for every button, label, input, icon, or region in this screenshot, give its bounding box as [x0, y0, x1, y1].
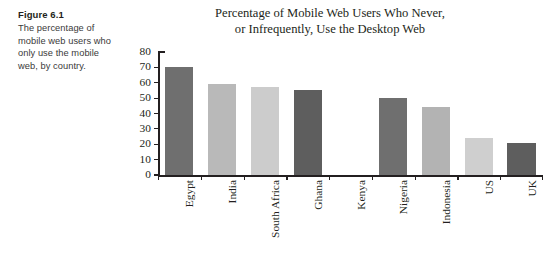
x-axis-category-label: US [484, 180, 495, 195]
chart-title: Percentage of Mobile Web Users Who Never… [120, 6, 540, 37]
y-axis-tick [154, 159, 159, 160]
x-axis-category-label: Nigeria [398, 180, 409, 214]
x-axis-category-label-text: Indonesia [441, 180, 452, 224]
y-axis-tick-labels: 80706050403020100 [125, 52, 151, 175]
bar [507, 143, 535, 175]
y-axis-tick-label: 40 [125, 108, 151, 119]
bar [251, 87, 279, 175]
chart-title-line-1: Percentage of Mobile Web Users Who Never… [120, 6, 540, 22]
x-axis-category-label-text: Ghana [313, 180, 324, 210]
bar [294, 90, 322, 175]
x-axis-category-label: Egypt [184, 180, 195, 207]
y-axis-tick [154, 82, 159, 83]
x-axis-category-label-text: India [227, 180, 238, 203]
bar [465, 138, 493, 175]
x-axis-category-label: Kenya [356, 180, 367, 210]
bar [165, 67, 193, 175]
x-axis-line [158, 175, 543, 177]
plot-area: 80706050403020100 [158, 52, 543, 175]
figure-caption-text: The percentage of mobile web users who o… [18, 22, 114, 72]
y-axis-tick [154, 128, 159, 129]
y-axis-tick-label: 80 [125, 46, 151, 57]
x-axis-category-label: Indonesia [441, 180, 452, 224]
y-axis-tick [158, 51, 165, 52]
figure-number-label: Figure 6.1 [18, 8, 114, 21]
y-axis-tick-label: 70 [125, 61, 151, 72]
x-axis-category-label-text: South Africa [270, 180, 281, 238]
chart-title-line-2: or Infrequently, Use the Desktop Web [120, 22, 540, 38]
x-axis-category-label: Ghana [313, 180, 324, 210]
x-axis-category-label-text: UK [527, 180, 538, 196]
x-axis-category-label-text: Kenya [356, 180, 367, 210]
y-axis-line [158, 52, 160, 175]
bar [379, 98, 407, 175]
x-axis-category-label-text: Egypt [184, 180, 195, 207]
figure-container: Figure 6.1 The percentage of mobile web … [0, 0, 551, 262]
y-axis-tick [154, 98, 159, 99]
figure-caption-block: Figure 6.1 The percentage of mobile web … [18, 8, 114, 72]
x-axis-category-label-text: US [484, 180, 495, 195]
y-axis-tick-label: 30 [125, 123, 151, 134]
y-axis-tick-label: 10 [125, 154, 151, 165]
y-axis-tick-label: 50 [125, 92, 151, 103]
x-axis-category-label-text: Nigeria [398, 180, 409, 214]
y-axis-tick [154, 113, 159, 114]
x-axis-category-label: UK [527, 180, 538, 196]
chart-container: Percentage of Mobile Web Users Who Never… [120, 0, 551, 262]
y-axis-tick [154, 144, 159, 145]
y-axis-tick-label: 0 [125, 169, 151, 180]
y-axis-tick-label: 20 [125, 138, 151, 149]
y-axis-tick [154, 67, 159, 68]
x-axis-category-label: India [227, 180, 238, 203]
bar [208, 84, 236, 175]
x-axis-category-labels: EgyptIndiaSouth AfricaGhanaKenyaNigeriaI… [158, 180, 543, 262]
bar [422, 107, 450, 175]
x-axis-category-label: South Africa [270, 180, 281, 238]
y-axis-tick-label: 60 [125, 77, 151, 88]
